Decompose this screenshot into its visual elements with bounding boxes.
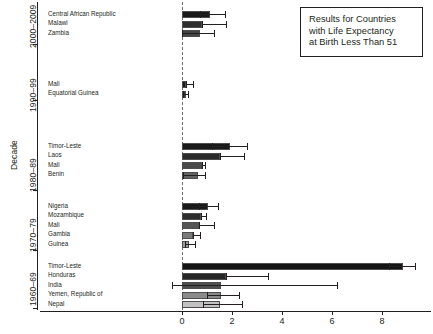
bar-row: Yemen, Republic of	[40, 291, 431, 300]
bar-row: India	[40, 281, 431, 290]
bar-row: Timor-Leste	[40, 142, 431, 151]
bar-group: NigeriaMozambiqueMaliGambiaGuinea	[40, 202, 431, 250]
bar-row: Benin	[40, 171, 431, 180]
x-tick	[182, 311, 183, 315]
bar[interactable]	[182, 222, 199, 229]
error-bar-cap	[200, 232, 201, 239]
error-bar	[203, 304, 242, 305]
error-bar-cap	[183, 172, 184, 179]
error-bar-cap	[183, 91, 184, 98]
legend-line-2: with Life Expectancy	[309, 26, 415, 38]
bar[interactable]	[182, 153, 220, 160]
error-bar	[220, 156, 244, 157]
error-bar-cap	[415, 263, 416, 270]
y-tick-label: 1980–89	[28, 158, 38, 192]
bar-row: Nepal	[40, 300, 431, 309]
error-bar-cap	[205, 172, 206, 179]
error-bar	[172, 285, 337, 286]
bar-row-label: Malawi	[48, 19, 68, 26]
bar-row: Laos	[40, 152, 431, 161]
error-bar	[193, 235, 200, 236]
error-bar-cap	[182, 30, 183, 37]
error-bar	[226, 276, 268, 277]
bar-row: Mozambique	[40, 212, 431, 221]
y-tick-label: 1990–99	[28, 78, 38, 112]
bar[interactable]	[182, 213, 201, 220]
error-bar-cap	[244, 153, 245, 160]
error-bar-cap	[225, 11, 226, 18]
y-tick-label: 1960–69	[28, 272, 38, 306]
error-bar-cap	[199, 222, 200, 229]
error-bar	[202, 24, 226, 25]
bar-row-label: Nigeria	[48, 202, 68, 209]
bar-row: Gambia	[40, 231, 431, 240]
bar-row-label: India	[48, 281, 62, 288]
error-bar-cap	[199, 203, 200, 210]
error-bar	[186, 84, 193, 85]
bar[interactable]	[182, 273, 226, 280]
error-bar-cap	[226, 21, 227, 28]
error-bar-cap	[203, 301, 204, 308]
bar-row: Mali	[40, 161, 431, 170]
bar-row: Mali	[40, 80, 431, 89]
bar-row-label: Guinea	[48, 240, 68, 247]
bar-row-label: Central African Republic	[48, 10, 116, 17]
error-bar-cap	[242, 301, 243, 308]
x-tick	[382, 311, 383, 315]
error-bar-cap	[220, 153, 221, 160]
bar-row-label: Mozambique	[48, 211, 84, 218]
bar-row-label: Nepal	[48, 300, 64, 307]
bar[interactable]	[182, 162, 202, 169]
x-tick-label: 2	[222, 316, 242, 326]
error-bar-cap	[214, 222, 215, 229]
bar-row: Honduras	[40, 272, 431, 281]
error-bar-cap	[205, 162, 206, 169]
bar-row-label: Gambia	[48, 230, 70, 237]
error-bar-cap	[202, 21, 203, 28]
bar-row: Timor-Leste	[40, 262, 431, 271]
error-bar	[183, 175, 206, 176]
bar-row-label: Mali	[48, 80, 60, 87]
error-bar	[212, 146, 247, 147]
error-bar-cap	[239, 292, 240, 299]
error-bar	[199, 206, 218, 207]
error-bar-cap	[186, 81, 187, 88]
bar[interactable]	[182, 263, 403, 270]
error-bar-cap	[188, 91, 189, 98]
bar-row: Mali	[40, 221, 431, 230]
bar-row-label: Mali	[48, 161, 60, 168]
error-bar	[207, 295, 239, 296]
bar-row: Nigeria	[40, 202, 431, 211]
error-bar-cap	[212, 143, 213, 150]
error-bar-cap	[185, 241, 186, 248]
legend-annotation-box: Results for Countries with Life Expectan…	[300, 7, 423, 57]
bar[interactable]	[182, 21, 202, 28]
bar-row-label: Yemen, Republic of	[48, 290, 102, 297]
bar-row-label: Zambia	[48, 29, 69, 36]
y-axis-title: Decade	[9, 125, 19, 185]
y-tick-label: 1970–79	[28, 218, 38, 252]
bar-row: Guinea	[40, 240, 431, 249]
error-bar	[200, 14, 225, 15]
error-bar-cap	[200, 11, 201, 18]
bar-group: Timor-LesteHondurasIndiaYemen, Republic …	[40, 262, 431, 310]
bar-row-label: Laos	[48, 151, 62, 158]
x-tick-label: 8	[372, 316, 392, 326]
error-bar-cap	[218, 203, 219, 210]
bar-row-label: Honduras	[48, 271, 75, 278]
bar-row: Equatorial Guinea	[40, 90, 431, 99]
chart-root: Decade 2000–20091990–991980–891970–79196…	[0, 0, 433, 334]
error-bar-cap	[201, 213, 202, 220]
bar-row-label: Benin	[48, 170, 64, 177]
error-bar	[185, 244, 195, 245]
error-bar-cap	[389, 263, 390, 270]
error-bar-cap	[193, 232, 194, 239]
error-bar-cap	[337, 282, 338, 289]
x-tick	[282, 311, 283, 315]
legend-line-3: at Birth Less Than 51	[309, 37, 415, 49]
error-bar	[389, 266, 415, 267]
error-bar-cap	[206, 213, 207, 220]
bar[interactable]	[182, 232, 193, 239]
bar-group: Timor-LesteLaosMaliBenin	[40, 142, 431, 180]
bar-row-label: Mali	[48, 221, 60, 228]
